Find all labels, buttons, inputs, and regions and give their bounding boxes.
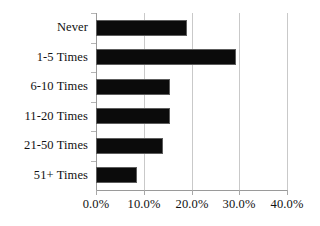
value-axis-tick-mark [96, 190, 97, 195]
category-axis-tick-mark [91, 43, 96, 44]
category-axis-labels: Never1-5 Times6-10 Times11-20 Times21-50… [0, 13, 88, 190]
bar [96, 108, 170, 124]
gridline [239, 13, 240, 190]
category-axis-tick-label: 51+ Times [0, 169, 88, 182]
bar [96, 20, 187, 36]
value-axis-tick-label: 0.0% [83, 197, 109, 212]
category-axis-tick-mark [91, 13, 96, 14]
category-axis-tick-label: Never [0, 21, 88, 34]
category-axis-tick-mark [91, 102, 96, 103]
value-axis-tick-mark [239, 190, 240, 195]
category-axis-tick-label: 11-20 Times [0, 110, 88, 123]
value-axis-tick-label: 40.0% [271, 197, 304, 212]
category-axis-tick-mark [91, 131, 96, 132]
category-axis-tick-label: 6-10 Times [0, 80, 88, 93]
value-axis-tick-label: 10.0% [128, 197, 161, 212]
value-axis-tick-mark [287, 190, 288, 195]
bar [96, 167, 137, 183]
value-axis-labels: 0.0%10.0%20.0%30.0%40.0% [0, 197, 320, 217]
value-axis-tick-mark [192, 190, 193, 195]
category-axis-tick-label: 21-50 Times [0, 139, 88, 152]
value-axis-tick-mark [144, 190, 145, 195]
category-axis-tick-label: 1-5 Times [0, 51, 88, 64]
category-axis-tick-mark [91, 161, 96, 162]
gridline [144, 13, 145, 190]
gridline [287, 13, 288, 190]
value-axis-tick-label: 30.0% [223, 197, 256, 212]
plot-area [96, 13, 287, 190]
gridline [192, 13, 193, 190]
bar [96, 79, 170, 95]
bar [96, 138, 163, 154]
bar [96, 49, 236, 65]
bar-chart: Never1-5 Times6-10 Times11-20 Times21-50… [0, 0, 320, 226]
category-axis-tick-mark [91, 72, 96, 73]
value-axis-tick-label: 20.0% [176, 197, 209, 212]
